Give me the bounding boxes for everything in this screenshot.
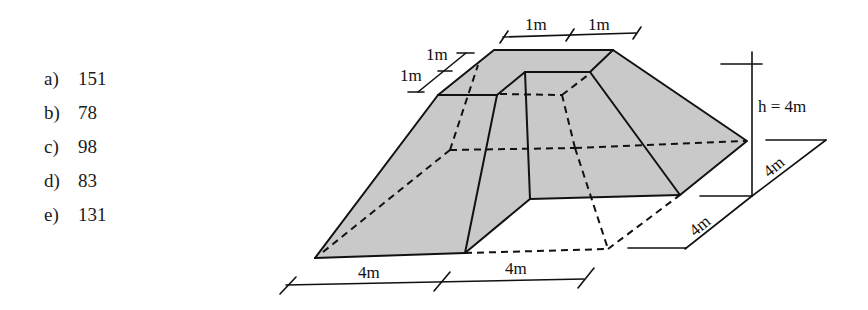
dim-label-height: h = 4m [758,97,806,116]
dim-label-left-1: 1m [426,45,448,64]
hidden-edge [608,195,680,249]
dim-label-bottom-2: 4m [505,259,527,278]
hidden-edge [465,249,608,253]
dim-label-right-depth: 4m [759,153,788,182]
dim-label-right-base: 4m [685,212,714,241]
dim-label-top-2: 1m [588,15,610,34]
shaded-faces [315,50,747,258]
dim-tick [578,268,594,288]
dim-line-bottom [286,279,584,285]
dim-label-bottom-1: 4m [358,263,380,282]
dim-label-left-2: 1m [400,66,422,85]
solid-figure: 1m 1m 1m 1m h = 4m 4m 4m 4m 4m [0,0,868,310]
dim-label-top-1: 1m [525,15,547,34]
